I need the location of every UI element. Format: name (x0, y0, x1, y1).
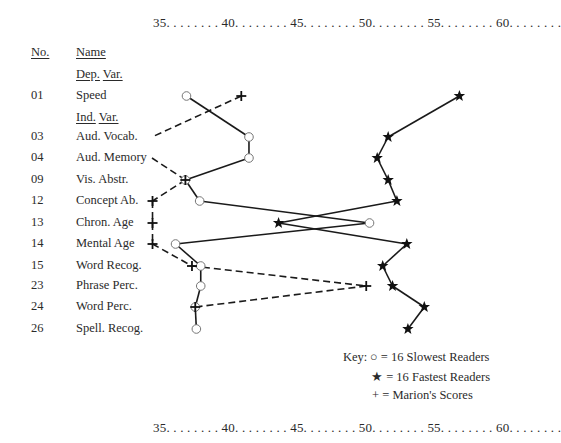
legend-item-fastest: ★ = 16 Fastest Readers (371, 369, 490, 385)
fastest-line-segment (388, 96, 459, 137)
legend-label: 16 Slowest Readers (391, 350, 490, 364)
slowest-point-circle (182, 92, 191, 101)
plus-icon: + (372, 388, 379, 402)
slowest-point-circle (245, 133, 254, 142)
fastest-line-segment (383, 244, 407, 266)
marion-line-segment (153, 180, 186, 201)
slowest-point-circle (192, 325, 201, 334)
slowest-point-circle (245, 154, 254, 163)
legend-label: Marion's Scores (392, 388, 472, 402)
legend-title: Key: (343, 350, 367, 365)
legend-label: 16 Fastest Readers (396, 370, 490, 384)
slowest-point-circle (195, 197, 204, 206)
slowest-line-segment (185, 158, 249, 180)
fastest-line-segment (393, 286, 425, 307)
star-icon: ★ (371, 370, 383, 384)
fastest-point-star (273, 217, 284, 228)
slowest-point-circle (171, 240, 180, 249)
slowest-line-segment (200, 201, 370, 223)
fastest-point-star (454, 90, 465, 101)
fastest-point-star (419, 301, 430, 312)
fastest-point-star (383, 174, 394, 185)
legend-item-slowest: ○ = 16 Slowest Readers (370, 350, 489, 365)
legend-item-marion: + = Marion's Scores (372, 388, 473, 403)
fastest-point-star (391, 195, 402, 206)
slowest-line-segment (176, 244, 201, 266)
circle-icon: ○ (370, 350, 378, 364)
slowest-point-circle (196, 282, 205, 291)
marion-line-segment (152, 158, 185, 180)
marion-line-segment (192, 266, 366, 286)
marion-line-segment (195, 286, 366, 307)
slowest-point-circle (196, 262, 205, 271)
fastest-line-segment (279, 201, 397, 223)
fastest-point-star (372, 152, 383, 163)
slowest-point-circle (365, 219, 374, 228)
fastest-point-star (383, 131, 394, 142)
